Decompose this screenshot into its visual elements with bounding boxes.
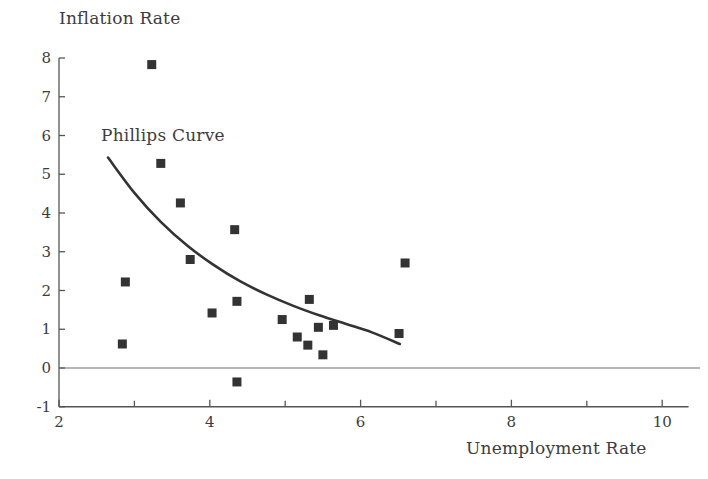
scatter-point-marker xyxy=(232,377,241,386)
scatter-point-marker xyxy=(208,308,217,317)
scatter-point-marker xyxy=(147,60,156,69)
x-axis-tick-label: 10 xyxy=(653,415,672,430)
scatter-point-marker xyxy=(176,198,185,207)
plot-area xyxy=(0,0,708,479)
y-axis-tick-label: 7 xyxy=(41,89,51,104)
scatter-point-marker xyxy=(401,258,410,267)
fitted-phillips-curve xyxy=(108,158,400,344)
y-axis-tick-label: 3 xyxy=(41,244,51,259)
y-axis-tick-label: 2 xyxy=(41,283,51,298)
scatter-point-marker xyxy=(305,295,314,304)
scatter-point-marker xyxy=(118,339,127,348)
scatter-point-marker xyxy=(156,159,165,168)
y-axis-tick-label: 1 xyxy=(41,322,51,337)
scatter-point-marker xyxy=(121,277,130,286)
x-axis-tick-label: 6 xyxy=(356,415,366,430)
scatter-point-marker xyxy=(314,323,323,332)
x-axis-title: Unemployment Rate xyxy=(466,440,647,457)
y-axis-tick-label: 5 xyxy=(41,167,51,182)
phillips-curve-line xyxy=(108,158,400,344)
x-axis-tick-label: 8 xyxy=(507,415,517,430)
y-axis-tick-label: -1 xyxy=(36,399,51,414)
phillips-curve-annotation-label: Phillips Curve xyxy=(101,127,225,144)
x-axis-tick-label: 2 xyxy=(54,415,64,430)
scatter-point-marker xyxy=(278,315,287,324)
y-axis-title: Inflation Rate xyxy=(59,10,180,27)
axes-group xyxy=(59,58,689,407)
scatter-point-marker xyxy=(329,321,338,330)
scatter-point-marker xyxy=(230,225,239,234)
scatter-point-marker xyxy=(318,350,327,359)
y-axis-tick-label: 4 xyxy=(41,206,51,221)
y-axis-tick-label: 6 xyxy=(41,128,51,143)
scatter-point-marker xyxy=(395,329,404,338)
y-axis-tick-label: 0 xyxy=(41,361,51,376)
scatter-point-marker xyxy=(303,341,312,350)
phillips-curve-chart: Inflation Rate Unemployment Rate Phillip… xyxy=(0,0,708,479)
scatter-point-marker xyxy=(232,297,241,306)
scatter-point-marker xyxy=(293,333,302,342)
x-axis-tick-label: 4 xyxy=(205,415,215,430)
scatter-point-marker xyxy=(186,255,195,264)
y-axis-tick-label: 8 xyxy=(41,51,51,66)
